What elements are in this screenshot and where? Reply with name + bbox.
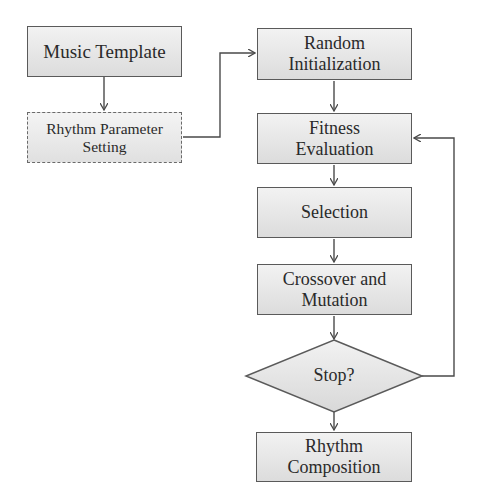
node-label: Selection <box>301 202 368 223</box>
node-label-line2: Setting <box>83 138 127 156</box>
node-label-line1: Random <box>304 33 365 54</box>
node-label-line2: Initialization <box>289 54 381 75</box>
node-selection: Selection <box>257 187 412 238</box>
node-label-line2: Mutation <box>302 290 368 311</box>
node-label-line2: Evaluation <box>296 139 374 160</box>
node-music-template: Music Template <box>27 26 182 77</box>
node-fitness-evaluation: Fitness Evaluation <box>257 113 412 164</box>
node-label-line1: Rhythm <box>305 436 363 457</box>
node-label-line1: Crossover and <box>283 269 386 290</box>
node-label-line2: Composition <box>287 457 380 478</box>
arrow-rhythm-to-random <box>183 53 255 137</box>
node-stop-label: Stop? <box>294 365 374 386</box>
node-label-line1: Rhythm Parameter <box>46 120 163 138</box>
node-label: Music Template <box>43 41 165 63</box>
node-random-initialization: Random Initialization <box>257 28 412 80</box>
arrow-stop-loop-to-fitness <box>414 138 454 376</box>
node-rhythm-parameter-setting: Rhythm Parameter Setting <box>27 112 182 163</box>
node-label-line1: Fitness <box>309 118 360 139</box>
node-crossover-mutation: Crossover and Mutation <box>257 264 412 315</box>
node-rhythm-composition: Rhythm Composition <box>256 432 412 482</box>
